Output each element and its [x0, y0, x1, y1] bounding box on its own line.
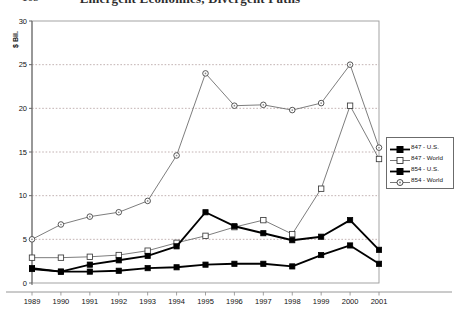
legend-item[interactable]: 847 - World	[389, 152, 451, 163]
svg-text:1994: 1994	[168, 297, 185, 306]
svg-text:20: 20	[19, 104, 27, 113]
legend-item[interactable]: 854 - World	[389, 174, 451, 185]
svg-text:0: 0	[23, 279, 27, 288]
legend-item[interactable]: 847 - U.S.	[389, 141, 451, 152]
svg-text:1996: 1996	[226, 297, 243, 306]
legend-key-847-us	[389, 141, 411, 152]
svg-text:1995: 1995	[197, 297, 214, 306]
legend-key-854-world	[389, 174, 411, 185]
svg-text:2000: 2000	[342, 297, 359, 306]
svg-text:1989: 1989	[24, 297, 41, 306]
chart-page: 168 Emergent Economies, Divergent Paths …	[0, 0, 458, 316]
legend-label: 854 - World	[411, 174, 443, 185]
svg-text:5: 5	[23, 235, 27, 244]
svg-text:10: 10	[19, 191, 27, 200]
legend-label: 847 - U.S.	[411, 141, 439, 152]
chart-legend: 847 - U.S. 847 - World 854 - U.S.	[386, 137, 454, 189]
svg-text:25: 25	[19, 60, 27, 69]
legend-item[interactable]: 854 - U.S.	[389, 163, 451, 174]
legend-key-847-world	[389, 152, 411, 163]
svg-text:2001: 2001	[371, 297, 388, 306]
legend-label: 854 - U.S.	[411, 163, 439, 174]
legend-label: 847 - World	[411, 152, 443, 163]
svg-text:1992: 1992	[110, 297, 127, 306]
svg-text:1993: 1993	[139, 297, 156, 306]
svg-text:1991: 1991	[81, 297, 98, 306]
svg-text:15: 15	[19, 148, 27, 157]
legend-key-854-us	[389, 163, 411, 174]
svg-text:1990: 1990	[53, 297, 70, 306]
svg-text:1999: 1999	[313, 297, 330, 306]
svg-text:1997: 1997	[255, 297, 272, 306]
svg-text:1998: 1998	[284, 297, 301, 306]
svg-text:30: 30	[19, 17, 27, 26]
